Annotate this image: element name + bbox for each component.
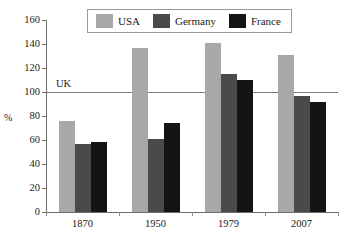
x-axis-tick-label: 1870 [53,218,113,229]
legend-item-france[interactable]: France [229,14,281,28]
y-axis-tick-label: 160 [24,15,40,25]
y-axis-tick-label: 80 [30,111,41,121]
bar-germany-1950[interactable] [148,139,164,212]
y-axis-tick-label: 40 [30,159,41,169]
x-axis-tick [338,212,339,216]
bar-germany-1979[interactable] [221,74,237,212]
legend-label: Germany [175,16,216,27]
legend-swatch-france [229,14,246,28]
bar-france-1870[interactable] [91,142,107,212]
x-axis-tick [119,212,120,216]
bar-usa-1870[interactable] [59,121,75,212]
y-axis-tick-label: 120 [24,63,40,73]
y-axis-tick-label: 140 [24,39,40,49]
bar-germany-1870[interactable] [75,144,91,212]
y-axis-title: % [4,113,12,123]
x-axis-tick [265,212,266,216]
bars-layer [46,20,338,212]
x-axis-tick [46,212,47,216]
bar-group [119,20,192,212]
legend-item-usa[interactable]: USA [96,14,140,28]
x-axis-tick-label: 2007 [272,218,332,229]
bar-usa-1979[interactable] [205,43,221,212]
x-axis-tick-label: 1979 [199,218,259,229]
x-axis-tick [192,212,193,216]
y-axis-tick-label: 60 [30,135,41,145]
bar-usa-1950[interactable] [132,48,148,212]
bar-chart: % 020406080100120140160 UK 1870195019792… [0,0,348,244]
legend-swatch-usa [96,14,113,28]
y-axis-tick-label: 0 [35,207,40,217]
bar-group [46,20,119,212]
x-axis-tick-label: 1950 [126,218,186,229]
y-axis-tick-label: 100 [24,87,40,97]
bar-france-1979[interactable] [237,80,253,212]
legend-label: France [251,16,281,27]
bar-group [265,20,338,212]
bar-france-1950[interactable] [164,123,180,212]
bar-france-2007[interactable] [310,102,326,212]
legend-item-germany[interactable]: Germany [153,14,216,28]
legend-swatch-germany [153,14,170,28]
y-axis-tick-label: 20 [30,183,41,193]
bar-germany-2007[interactable] [294,96,310,212]
bar-usa-2007[interactable] [278,55,294,212]
chart-legend: USAGermanyFrance [87,9,292,33]
legend-label: USA [118,16,140,27]
bar-group [192,20,265,212]
